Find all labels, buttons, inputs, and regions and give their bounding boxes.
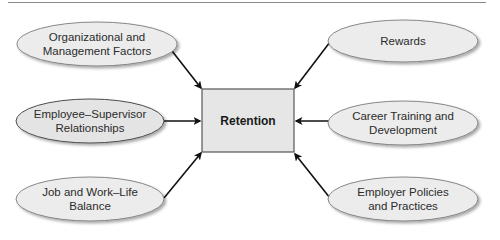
node-job-line1: Job and Work–Life <box>42 185 138 199</box>
node-policies-line1: Employer Policies <box>357 185 448 199</box>
node-org-label: Organizational and Management Factors <box>22 26 172 62</box>
arrow-job-to-retention <box>164 153 201 198</box>
node-job-line2: Balance <box>69 199 111 213</box>
node-career-label: Career Training and Development <box>330 105 476 141</box>
node-emp-line2: Relationships <box>55 121 124 135</box>
node-rewards-line1: Rewards <box>380 34 425 48</box>
node-career-line1: Career Training and <box>352 109 454 123</box>
node-org-line1: Organizational and <box>49 30 146 44</box>
node-emp-line1: Employee–Supervisor <box>34 107 147 121</box>
arrow-rewards-to-retention <box>295 42 330 88</box>
node-career-line2: Development <box>369 123 437 137</box>
node-policies-label: Employer Policies and Practices <box>330 181 476 217</box>
arrow-policies-to-retention <box>295 154 330 198</box>
retention-label: Retention <box>202 89 294 152</box>
node-org-line2: Management Factors <box>43 44 152 58</box>
node-rewards-label: Rewards <box>330 23 476 59</box>
node-job-label: Job and Work–Life Balance <box>18 181 162 217</box>
node-emp-label: Employee–Supervisor Relationships <box>18 103 162 139</box>
node-policies-line2: and Practices <box>368 199 438 213</box>
